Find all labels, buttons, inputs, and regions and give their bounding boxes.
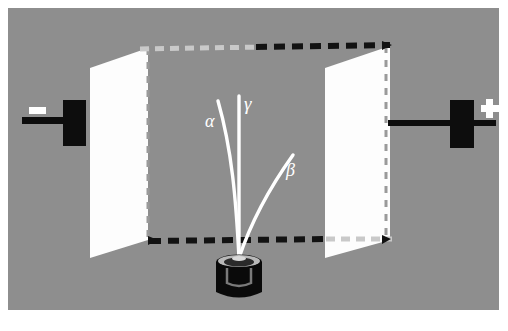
figure-canvas: α γ β − + bbox=[0, 0, 508, 331]
radiation-deflection-figure: α γ β − + bbox=[0, 0, 508, 331]
